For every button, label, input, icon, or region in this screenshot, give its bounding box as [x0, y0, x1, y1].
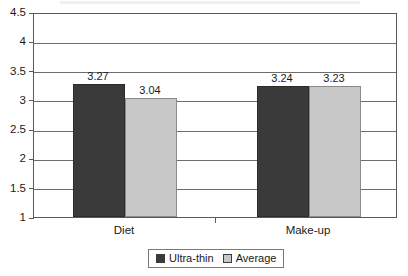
bar-diet-ultra-thin: [73, 84, 125, 217]
bar-value-label: 3.04: [124, 85, 176, 96]
y-axis-tick-label: 1.5: [0, 183, 26, 195]
legend-label-ultra-thin: Ultra-thin: [169, 253, 214, 264]
y-axis-tick-label: 4.5: [0, 7, 26, 19]
bar-chart: 4.543.532.521.51 3.273.043.243.23 DietMa…: [0, 0, 408, 276]
y-axis-tick-label: 2.5: [0, 124, 26, 136]
bar-make-up-average: [309, 86, 361, 217]
bar-value-label: 3.23: [308, 73, 360, 84]
chart-legend: Ultra-thin Average: [148, 249, 284, 268]
x-axis-category-label: Diet: [42, 224, 206, 236]
bar-value-label: 3.24: [256, 73, 308, 84]
x-axis-tick-mark: [215, 218, 216, 223]
legend-swatch-average: [223, 254, 232, 263]
legend-swatch-ultra-thin: [156, 254, 165, 263]
legend-item-average: Average: [223, 253, 277, 264]
bar-value-label: 3.27: [72, 71, 124, 82]
y-axis-tick-label: 3: [0, 95, 26, 107]
bar-make-up-ultra-thin: [257, 86, 309, 217]
scan-artifact: [60, 1, 360, 4]
legend-label-average: Average: [236, 253, 277, 264]
bar-diet-average: [125, 98, 177, 217]
y-axis-tick-label: 3.5: [0, 66, 26, 78]
y-axis-tick-label: 4: [0, 36, 26, 48]
y-axis-tick-label: 1: [0, 212, 26, 224]
gridline: [34, 43, 396, 44]
x-axis-category-label: Make-up: [226, 224, 390, 236]
y-axis-tick-label: 2: [0, 153, 26, 165]
plot-area: [33, 13, 397, 218]
legend-item-ultra-thin: Ultra-thin: [156, 253, 214, 264]
